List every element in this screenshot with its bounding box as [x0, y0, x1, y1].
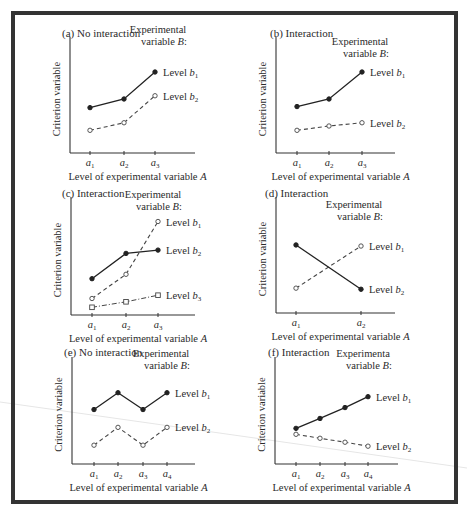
series-label: Level b2 [370, 118, 406, 131]
legend-heading: Experimental [130, 24, 187, 35]
paper-crease-line [0, 402, 467, 468]
y-axis-label: Criterion variable [257, 221, 268, 296]
x-tick-label: a3 [139, 468, 148, 481]
series-label: Level b1 [369, 241, 405, 254]
series-line [90, 72, 155, 108]
x-tick-label: a2 [114, 468, 123, 481]
panel-b: (b) InteractionCriterion variablea1a2a3L… [257, 27, 410, 182]
data-point [116, 391, 120, 395]
x-tick-label: a2 [357, 317, 366, 330]
series-level-b2: Level b2 [295, 118, 406, 133]
x-tick-label: a3 [358, 157, 367, 170]
data-point [359, 244, 363, 248]
data-point [360, 121, 364, 125]
data-point [360, 70, 364, 74]
data-point [295, 128, 299, 132]
series-level-b1: Level b1 [90, 217, 202, 301]
series-level-b1: Level b1 [88, 67, 199, 110]
legend-heading: Experimental [133, 348, 190, 359]
series-label: Level b1 [376, 392, 412, 405]
series-level-b2: Level b2 [88, 91, 199, 133]
data-point [366, 444, 370, 448]
data-point [124, 300, 129, 305]
x-axis-label: Level of experimental variable A [271, 331, 410, 342]
data-point [90, 296, 94, 300]
x-tick-label: a3 [151, 157, 160, 170]
x-tick-label: a2 [316, 468, 325, 481]
x-tick-label: a2 [122, 319, 131, 332]
series-level-b1: Level b1 [295, 67, 406, 109]
series-label: Level b3 [166, 290, 202, 303]
legend-heading: Experimental [326, 199, 383, 210]
data-point [327, 124, 331, 128]
data-point [88, 105, 92, 109]
data-point [295, 104, 299, 108]
y-axis-label: Criterion variable [256, 377, 267, 452]
panel-c: (c) InteractionCriterion variablea1a2a3L… [52, 187, 208, 344]
series-line [92, 222, 158, 299]
data-point [327, 97, 331, 101]
series-line [296, 434, 368, 446]
data-point [124, 251, 128, 255]
panel-title: (d) Interaction [265, 187, 329, 200]
x-axis-label: Level of experimental variable A [272, 482, 411, 493]
data-point [92, 407, 96, 411]
series-label: Level b2 [163, 91, 199, 104]
data-point [141, 443, 145, 447]
data-point [90, 305, 95, 310]
legend-heading-variable: variable B: [144, 360, 190, 371]
series-level-b2: Level b2 [90, 245, 202, 281]
data-point [153, 70, 157, 74]
data-point [90, 277, 94, 281]
data-point [294, 432, 298, 436]
data-point [88, 128, 92, 132]
data-point [141, 407, 145, 411]
data-point [294, 243, 298, 247]
series-label: Level b1 [175, 388, 211, 401]
series-line [296, 245, 361, 289]
data-point [318, 416, 322, 420]
data-point [116, 425, 120, 429]
legend-heading-variable: variable B: [343, 48, 389, 59]
x-tick-label: a1 [86, 157, 95, 170]
x-tick-label: a1 [293, 157, 302, 170]
x-axis-label: Level of experimental variable A [271, 171, 410, 182]
data-point [92, 443, 96, 447]
data-point [122, 97, 126, 101]
series-line [296, 397, 368, 429]
data-point [165, 425, 169, 429]
panel-a: (a) No interactionCriterion variablea1a2… [51, 24, 207, 182]
series-level-b3: Level b3 [90, 290, 202, 309]
x-tick-label: a3 [341, 468, 350, 481]
data-point [343, 440, 347, 444]
legend-heading-variable: variable B: [136, 201, 182, 212]
legend-heading-variable: variable B: [337, 211, 383, 222]
figure-frame [13, 13, 456, 502]
data-point [343, 405, 347, 409]
series-label: Level b2 [376, 441, 412, 454]
series-line [94, 393, 167, 410]
legend-heading: Experimenta [336, 348, 390, 359]
x-tick-label: a1 [292, 317, 301, 330]
series-level-b2: Level b2 [294, 432, 412, 454]
data-point [156, 293, 161, 298]
legend-heading: Experimental [332, 36, 389, 47]
x-tick-label: a1 [292, 468, 301, 481]
data-point [124, 272, 128, 276]
series-label: Level b2 [166, 245, 202, 258]
x-tick-label: a4 [364, 468, 373, 481]
y-axis-label: Criterion variable [52, 222, 63, 297]
data-point [122, 121, 126, 125]
series-level-b1: Level b1 [294, 392, 412, 431]
series-label: Level b2 [175, 422, 211, 435]
data-point [294, 426, 298, 430]
x-tick-label: a1 [90, 468, 99, 481]
series-label: Level b1 [370, 67, 406, 80]
data-point [366, 394, 370, 398]
x-axis-label: Level of experimental variable A [69, 482, 208, 493]
y-axis-label: Criterion variable [53, 377, 64, 452]
panel-title: (b) Interaction [270, 27, 334, 40]
x-tick-label: a3 [154, 319, 163, 332]
legend-heading-variable: variable B: [346, 360, 392, 371]
y-axis-label: Criterion variable [257, 61, 268, 136]
